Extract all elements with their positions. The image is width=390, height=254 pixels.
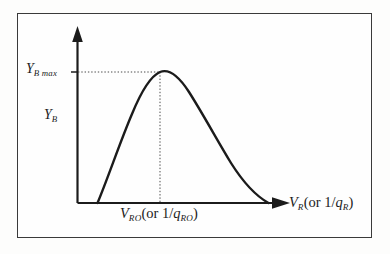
- yb-subscript: B: [52, 114, 58, 124]
- vr-subscript: R: [298, 202, 304, 212]
- vro-suffix-symbol: q: [173, 205, 180, 221]
- figure-container: YB max YB VRO(or 1/qRO) VR(or 1/qR): [0, 0, 390, 254]
- y-axis-arrowhead: [72, 26, 83, 42]
- x-axis-title-vr: VR(or 1/qR): [289, 195, 353, 210]
- vr-symbol: V: [289, 194, 298, 210]
- vr-suffix-open: (or 1/: [304, 194, 336, 210]
- response-curve: [98, 71, 269, 203]
- x-axis-label-vro: VRO(or 1/qRO): [120, 206, 198, 221]
- ybmax-subscript: B max: [34, 68, 57, 78]
- y-axis-label-ybmax: YB max: [26, 62, 57, 76]
- y-axis-label-yb: YB: [44, 108, 57, 122]
- vro-suffix-open: (or 1/: [141, 205, 173, 221]
- yb-symbol: Y: [44, 107, 52, 122]
- x-axis-arrowhead: [272, 197, 290, 208]
- vro-subscript: RO: [129, 213, 142, 223]
- vr-suffix-subscript: R: [343, 202, 349, 212]
- vro-suffix-subscript: RO: [181, 213, 194, 223]
- ybmax-symbol: Y: [26, 61, 34, 76]
- vr-suffix-symbol: q: [335, 194, 342, 210]
- vro-symbol: V: [120, 205, 129, 221]
- vr-suffix-close: ): [348, 194, 353, 210]
- vro-suffix-close: ): [193, 205, 198, 221]
